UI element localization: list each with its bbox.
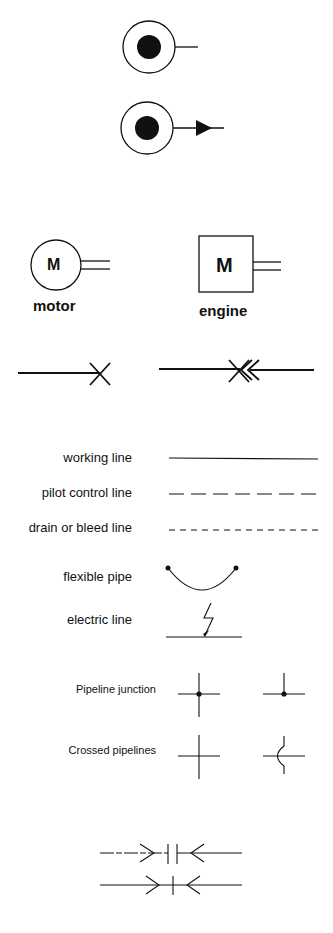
working-line-icon — [168, 454, 320, 464]
motor-label: motor — [33, 297, 76, 314]
working-line-label: working line — [63, 450, 132, 465]
tee-junction-icon — [261, 672, 307, 702]
flexible-pipe-icon — [162, 562, 242, 594]
hop-over-cross-icon — [261, 734, 307, 780]
pilot-control-line-label: pilot control line — [42, 485, 132, 500]
motor-glyph: M — [47, 256, 60, 274]
engine-symbol — [197, 234, 287, 296]
electric-line-label: electric line — [67, 612, 132, 627]
engine-glyph: M — [216, 254, 233, 277]
crossed-pipelines-label: Crossed pipelines — [69, 744, 156, 756]
quick-coupling-connected-icon — [96, 873, 246, 899]
drain-bleed-line-label: drain or bleed line — [29, 520, 132, 535]
plain-cross-icon — [176, 734, 222, 780]
rotary-shaft-icon — [118, 18, 203, 78]
drain-bleed-line-icon — [168, 525, 320, 535]
pipeline-junction-label: Pipeline junction — [76, 683, 156, 695]
rotary-shaft-arrow-icon — [116, 98, 226, 158]
quick-coupling-disconnected-icon — [96, 842, 246, 868]
quick-coupling-plugged-icon — [155, 356, 320, 388]
engine-label: engine — [199, 302, 247, 319]
pilot-control-line-icon — [168, 489, 320, 499]
plugged-port-icon — [14, 360, 114, 390]
flexible-pipe-label: flexible pipe — [63, 569, 132, 584]
electric-line-icon — [164, 600, 244, 640]
cross-junction-icon — [176, 672, 222, 718]
motor-symbol — [28, 236, 118, 296]
